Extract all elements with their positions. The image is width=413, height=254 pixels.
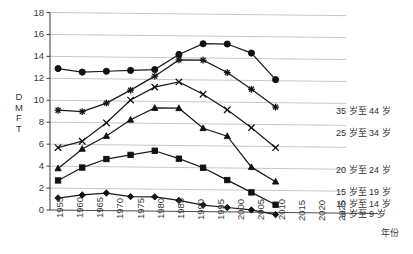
series-label-25-34: 25 岁至 34 岁 bbox=[336, 126, 391, 139]
x-tick-label: 2000 bbox=[235, 199, 246, 220]
y-axis-title: DMFT bbox=[12, 92, 26, 134]
x-tick-label: 1965 bbox=[94, 197, 105, 218]
y-tick-label: 14 bbox=[22, 51, 44, 60]
x-tick-label: 1980 bbox=[155, 198, 166, 219]
x-tick-label: 1970 bbox=[114, 198, 125, 219]
dmft-line-chart: 024681012141618 DMFT 1955196019651970197… bbox=[0, 0, 413, 254]
x-tick-label: 2005 bbox=[255, 199, 266, 220]
y-tick-label: 6 bbox=[22, 139, 44, 148]
x-tick-label: 1990 bbox=[195, 198, 206, 219]
y-tick-label: 18 bbox=[22, 8, 44, 17]
x-tick-label: 1955 bbox=[54, 197, 65, 218]
series-label-5-9: 5 岁至 9 岁 bbox=[341, 207, 386, 220]
y-tick-label: 0 bbox=[22, 205, 44, 214]
series-label-35-44: 35 岁至 44 岁 bbox=[336, 104, 391, 117]
x-tick-label: 1960 bbox=[74, 197, 85, 218]
x-tick-label: 2020 bbox=[316, 200, 327, 221]
y-tick-label: 2 bbox=[22, 183, 44, 192]
x-tick-label: 2015 bbox=[296, 199, 307, 220]
y-tick-label: 12 bbox=[22, 73, 44, 82]
y-tick-label: 4 bbox=[22, 161, 44, 170]
x-tick-label: 1975 bbox=[135, 198, 146, 219]
y-tick-label: 16 bbox=[22, 29, 44, 38]
y-axis-title-char: F bbox=[12, 113, 26, 124]
x-tick-label: 2010 bbox=[276, 199, 287, 220]
series-label-20-24: 20 岁至 24 岁 bbox=[336, 163, 391, 176]
x-axis-title: 年份 bbox=[381, 226, 399, 239]
x-tick-label: 1995 bbox=[215, 199, 226, 220]
x-tick-label: 1985 bbox=[175, 198, 186, 219]
y-axis-title-char: D bbox=[12, 92, 26, 103]
y-axis-title-char: T bbox=[12, 124, 26, 135]
